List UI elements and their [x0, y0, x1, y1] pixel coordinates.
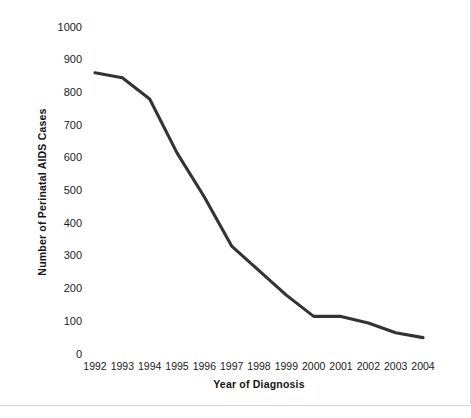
- y-axis-tick-label: 300: [44, 250, 82, 261]
- y-axis-tick-label: 500: [44, 185, 82, 196]
- line-chart-svg: [86, 27, 432, 354]
- y-axis-tick-label: 0: [44, 349, 82, 360]
- y-axis-tick-labels: 01002003004005006007008009001000: [38, 0, 82, 418]
- y-axis-tick-label: 400: [44, 218, 82, 229]
- y-axis-tick-label: 1000: [44, 22, 82, 33]
- y-axis-tick-label: 600: [44, 152, 82, 163]
- y-axis-tick-label: 100: [44, 316, 82, 327]
- chart-figure: Number of Perinatal AIDS Cases 010020030…: [0, 0, 471, 418]
- x-axis-tick-label: 2004: [403, 360, 443, 372]
- y-axis-tick-label: 700: [44, 120, 82, 131]
- y-axis-tick-label: 800: [44, 87, 82, 98]
- plot-area: [86, 27, 432, 354]
- x-axis-tick-labels: 1992199319941995199619971998199920002001…: [86, 360, 432, 374]
- y-axis-tick-label: 200: [44, 283, 82, 294]
- data-series-line: [95, 73, 423, 338]
- x-axis-title: Year of Diagnosis: [86, 378, 432, 390]
- y-axis-tick-label: 900: [44, 54, 82, 65]
